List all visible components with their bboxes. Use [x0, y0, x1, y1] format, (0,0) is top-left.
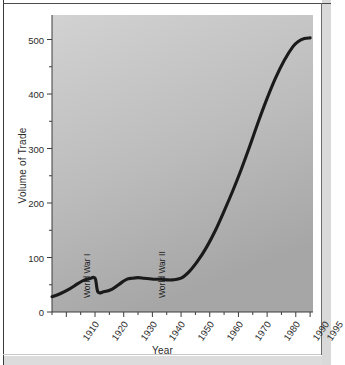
x-axis — [52, 312, 313, 317]
y-axis-tick-label: 100 — [8, 252, 44, 263]
y-axis-tick-label: 0 — [8, 307, 44, 318]
x-axis-title: Year — [152, 345, 173, 356]
y-axis-tick-label: 400 — [8, 89, 44, 100]
y-axis-tick-label: 500 — [8, 34, 44, 45]
annotation-label: World War II — [157, 251, 167, 298]
annotation-label: World War I — [82, 254, 92, 298]
y-axis-tick-label: 200 — [8, 198, 44, 209]
y-axis — [47, 15, 52, 312]
y-axis-tick-label: 300 — [8, 143, 44, 154]
